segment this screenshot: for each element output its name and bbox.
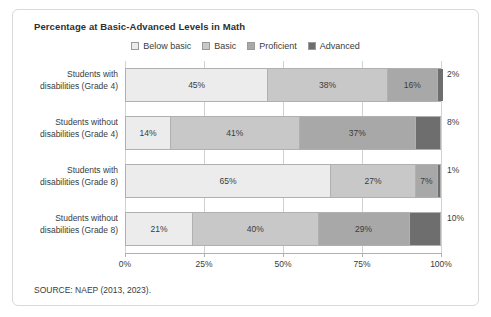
bar-rows: 45%38%16%Students withdisabilities (Grad… <box>125 61 441 253</box>
row-label-line2: disabilities (Grade 4) <box>14 81 118 93</box>
axis-tick <box>283 253 284 257</box>
axis-tick-label: 25% <box>195 259 212 269</box>
segment-value-label: 1% <box>447 165 459 175</box>
row-label-line1: Students without <box>14 213 118 225</box>
bar-segment[interactable]: 29% <box>318 213 409 245</box>
bar-segment[interactable]: 65% <box>126 165 330 197</box>
bar-segment[interactable]: 45% <box>126 69 267 101</box>
bar-segment[interactable] <box>437 69 443 101</box>
bar-segment[interactable]: 14% <box>126 117 170 149</box>
stacked-bar: 21%40%29%Students withoutdisabilities (G… <box>125 212 441 246</box>
axis-tick-label: 100% <box>430 259 452 269</box>
stacked-bar: 45%38%16%Students withdisabilities (Grad… <box>125 68 441 102</box>
bar-segment[interactable]: 40% <box>192 213 318 245</box>
chart-legend: Below basicBasicProficientAdvanced <box>13 41 478 51</box>
axis-tick-label: 75% <box>353 259 370 269</box>
axis-tick <box>125 253 126 257</box>
bar-segment[interactable]: 16% <box>387 69 437 101</box>
plot-area: 45%38%16%Students withdisabilities (Grad… <box>125 61 441 253</box>
bar-segment[interactable]: 21% <box>126 213 192 245</box>
legend-label: Basic <box>214 41 236 51</box>
stacked-bar: 14%41%37%Students withoutdisabilities (G… <box>125 116 441 150</box>
bar-segment[interactable] <box>437 165 440 197</box>
bar-segment[interactable]: 37% <box>299 117 415 149</box>
axis-tick <box>441 253 442 257</box>
bar-segment[interactable]: 27% <box>330 165 415 197</box>
source-note: SOURCE: NAEP (2013, 2023). <box>34 285 151 295</box>
legend-label: Advanced <box>320 41 360 51</box>
bar-segment[interactable]: 38% <box>267 69 386 101</box>
axis-tick-label: 0% <box>119 259 131 269</box>
legend-swatch-icon <box>308 42 316 50</box>
bar-row: 14%41%37%Students withoutdisabilities (G… <box>125 116 441 150</box>
legend-swatch-icon <box>247 42 255 50</box>
segment-value-label: 8% <box>447 117 459 127</box>
chart-title: Percentage at Basic-Advanced Levels in M… <box>34 21 245 32</box>
row-label-line1: Students with <box>14 165 118 177</box>
legend-label: Below basic <box>143 41 191 51</box>
axis-tick <box>362 253 363 257</box>
row-label-line2: disabilities (Grade 8) <box>14 225 118 237</box>
chart-card: Percentage at Basic-Advanced Levels in M… <box>12 9 479 306</box>
legend-swatch-icon <box>131 42 139 50</box>
row-label: Students withoutdisabilities (Grade 4) <box>14 117 118 140</box>
legend-item[interactable]: Below basic <box>131 41 191 51</box>
bar-segment[interactable] <box>415 117 440 149</box>
bar-segment[interactable]: 41% <box>170 117 299 149</box>
bar-segment[interactable] <box>409 213 440 245</box>
legend-label: Proficient <box>259 41 297 51</box>
axis-tick <box>204 253 205 257</box>
row-label-line2: disabilities (Grade 4) <box>14 129 118 141</box>
bar-row: 65%27%7%Students withdisabilities (Grade… <box>125 164 441 198</box>
bar-row: 45%38%16%Students withdisabilities (Grad… <box>125 68 441 102</box>
row-label: Students withdisabilities (Grade 8) <box>14 165 118 188</box>
bar-segment[interactable]: 7% <box>415 165 437 197</box>
segment-value-label: 10% <box>447 213 464 223</box>
axis-tick-label: 50% <box>274 259 291 269</box>
row-label: Students withoutdisabilities (Grade 8) <box>14 213 118 236</box>
bar-row: 21%40%29%Students withoutdisabilities (G… <box>125 212 441 246</box>
segment-value-label: 2% <box>447 69 459 79</box>
x-axis: 0%25%50%75%100% <box>125 253 441 271</box>
row-label: Students withdisabilities (Grade 4) <box>14 69 118 92</box>
legend-item[interactable]: Proficient <box>247 41 297 51</box>
row-label-line1: Students with <box>14 69 118 81</box>
legend-item[interactable]: Basic <box>202 41 236 51</box>
stacked-bar: 65%27%7%Students withdisabilities (Grade… <box>125 164 441 198</box>
legend-swatch-icon <box>202 42 210 50</box>
row-label-line1: Students without <box>14 117 118 129</box>
row-label-line2: disabilities (Grade 8) <box>14 177 118 189</box>
legend-item[interactable]: Advanced <box>308 41 360 51</box>
